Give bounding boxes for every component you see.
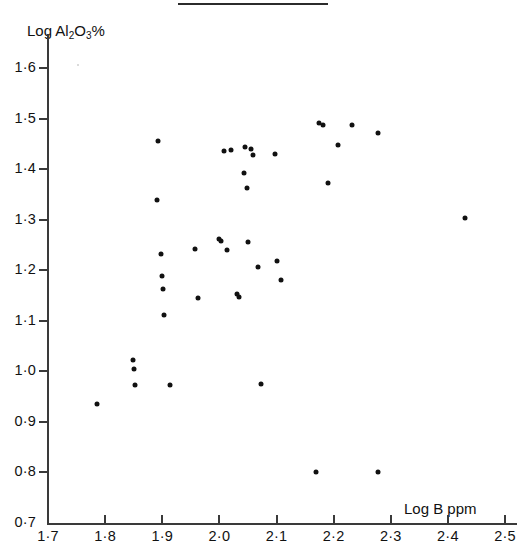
- x-axis-tick: [161, 515, 163, 524]
- scatter-point: [195, 295, 200, 300]
- scatter-point: [243, 145, 248, 150]
- x-axis-tick-label: 1·7: [37, 528, 59, 544]
- scatter-point: [217, 236, 222, 241]
- y-axis-tick-label: 1·3: [0, 211, 36, 227]
- x-axis-tick: [104, 515, 106, 524]
- scatter-point: [349, 122, 354, 127]
- top-rule-divider: [178, 3, 328, 5]
- x-axis-tick: [47, 515, 49, 524]
- scatter-point: [159, 252, 164, 257]
- y-axis-tick: [39, 370, 48, 372]
- scatter-point: [160, 274, 165, 279]
- y-axis-tick-label: 0·9: [0, 413, 36, 429]
- y-axis-tick-label-wrap: 1·6: [0, 59, 36, 75]
- scatter-plot-figure: Log Al2O3% Log B ppm 1·71·81·92·02·12·22…: [0, 0, 526, 556]
- y-axis-tick-label-wrap: 0·7: [0, 514, 36, 530]
- y-axis-title: Log Al2O3%: [27, 22, 105, 39]
- scatter-point: [463, 216, 468, 221]
- y-axis-tick-label-wrap: 1·0: [0, 362, 36, 378]
- scatter-point: [241, 171, 246, 176]
- scatter-point: [167, 383, 172, 388]
- scatter-point: [224, 248, 229, 253]
- y-axis-tick: [39, 219, 48, 221]
- y-axis-tick-label-wrap: 1·2: [0, 261, 36, 277]
- scatter-point: [321, 123, 326, 128]
- scatter-point: [244, 185, 249, 190]
- scatter-point: [259, 381, 264, 386]
- y-axis-tick: [39, 67, 48, 69]
- y-axis-tick-label: 1·1: [0, 312, 36, 328]
- x-axis-tick-label: 2·3: [380, 528, 402, 544]
- y-axis-title-mid: O: [74, 22, 86, 39]
- y-axis-tick-label: 0·7: [0, 514, 36, 530]
- scatter-point: [245, 240, 250, 245]
- x-axis-tick-label: 1·8: [94, 528, 116, 544]
- scatter-point: [132, 383, 137, 388]
- scatter-point: [131, 366, 136, 371]
- scatter-point: [130, 358, 135, 363]
- x-axis-tick-label: 2·0: [209, 528, 231, 544]
- scatter-point: [161, 312, 166, 317]
- y-axis-tick: [39, 320, 48, 322]
- y-axis-tick-label-wrap: 0·9: [0, 413, 36, 429]
- x-axis-tick: [390, 515, 392, 524]
- scatter-point: [221, 149, 226, 154]
- scatter-point: [376, 470, 381, 475]
- scatter-point: [161, 287, 166, 292]
- x-axis-tick-label: 2·5: [494, 528, 516, 544]
- y-axis-tick: [39, 269, 48, 271]
- y-axis-tick: [39, 118, 48, 120]
- x-axis-tick-label: 2·2: [323, 528, 345, 544]
- scatter-point: [325, 180, 330, 185]
- scatter-point: [228, 147, 233, 152]
- y-axis-tick-label: 1·2: [0, 261, 36, 277]
- scatter-point: [154, 198, 159, 203]
- scatter-point: [256, 264, 261, 269]
- x-axis-tick-label: 1·9: [151, 528, 173, 544]
- x-axis-tick-label: 2·1: [266, 528, 288, 544]
- scatter-point: [94, 402, 99, 407]
- y-axis-tick: [39, 168, 48, 170]
- x-axis-tick: [333, 515, 335, 524]
- x-axis-title: Log B ppm: [404, 500, 477, 517]
- y-axis-tick: [39, 421, 48, 423]
- y-axis-tick-label-wrap: 0·8: [0, 463, 36, 479]
- scatter-point: [236, 294, 241, 299]
- scatter-point: [336, 143, 341, 148]
- x-axis-tick-label: 2·4: [437, 528, 459, 544]
- scatter-point: [375, 130, 380, 135]
- y-axis-title-sub-2: 2: [69, 30, 75, 41]
- y-axis-tick-label-wrap: 1·3: [0, 211, 36, 227]
- scatter-point: [314, 470, 319, 475]
- scatter-point: [273, 151, 278, 156]
- y-axis-tick-label: 1·6: [0, 59, 36, 75]
- y-axis-line: [47, 34, 49, 525]
- y-axis-tick-label: 1·4: [0, 160, 36, 176]
- y-axis-tick-label-wrap: 1·4: [0, 160, 36, 176]
- y-axis-tick-label: 0·8: [0, 463, 36, 479]
- x-axis-tick: [447, 515, 449, 524]
- y-axis-tick-label: 1·0: [0, 362, 36, 378]
- scatter-point: [248, 146, 253, 151]
- y-axis-tick-label: 1·5: [0, 110, 36, 126]
- x-axis-tick: [276, 515, 278, 524]
- scatter-point: [274, 259, 279, 264]
- x-axis-tick: [218, 515, 220, 524]
- y-axis-tick-label-wrap: 1·5: [0, 110, 36, 126]
- print-speck: [77, 64, 79, 66]
- y-axis-tick: [39, 471, 48, 473]
- y-axis-title-sub-3: 3: [86, 30, 92, 41]
- y-axis-title-percent: %: [92, 22, 105, 39]
- scatter-point: [193, 246, 198, 251]
- x-axis-tick: [504, 515, 506, 524]
- y-axis-tick-label-wrap: 1·1: [0, 312, 36, 328]
- scatter-point: [279, 278, 284, 283]
- scatter-point: [156, 139, 161, 144]
- scatter-point: [250, 152, 255, 157]
